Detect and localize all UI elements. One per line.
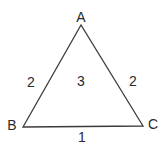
triangle-diagram: A B C 2 2 1 3 — [0, 0, 168, 153]
vertex-b-label: B — [7, 118, 16, 132]
face-label: 3 — [77, 74, 85, 88]
vertex-a-label: A — [76, 10, 85, 24]
edge-ac-label: 2 — [129, 74, 137, 88]
edge-ab-label: 2 — [27, 75, 35, 89]
vertex-c-label: C — [148, 117, 158, 131]
edge-bc-label: 1 — [78, 130, 86, 144]
